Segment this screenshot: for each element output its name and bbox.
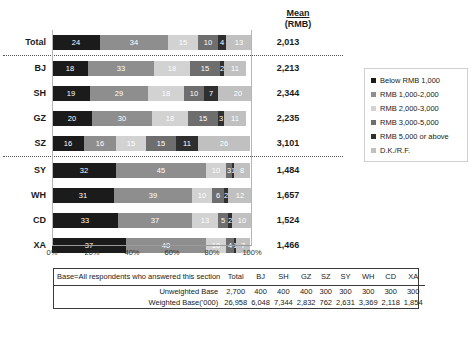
bar-segment: 4 bbox=[218, 35, 226, 50]
legend-item: RMB 2,000-3,000 bbox=[371, 101, 463, 115]
legend-swatch-icon bbox=[371, 78, 376, 83]
base-table-row: Unweighted Base2,70040040040030030030030… bbox=[54, 285, 425, 297]
axis-tick-label: 100% bbox=[242, 248, 261, 257]
mean-value: 1,657 bbox=[252, 190, 324, 200]
legend-label: Below RMB 1,000 bbox=[380, 76, 440, 85]
bar-segment: 11 bbox=[224, 111, 246, 126]
base-table-row-label: Unweighted Base bbox=[54, 285, 222, 297]
base-table-column-header: WH bbox=[357, 269, 380, 285]
base-table-cell: 2,700 bbox=[222, 285, 249, 297]
mean-header-line2: (RMB) bbox=[262, 19, 334, 30]
base-table-column-header: SZ bbox=[318, 269, 335, 285]
base-table-cell: 762 bbox=[318, 297, 335, 308]
base-table-cell: 3,369 bbox=[357, 297, 380, 308]
base-table-cell: 2,631 bbox=[334, 297, 357, 308]
row-label: SZ bbox=[0, 138, 52, 148]
bar-segment: 11 bbox=[224, 61, 246, 76]
bar-segment: 11 bbox=[176, 136, 198, 151]
bar-segment: 26 bbox=[198, 136, 250, 151]
bar-segment: 18 bbox=[154, 61, 190, 76]
legend-label: RMB 5,000 or above bbox=[380, 132, 449, 141]
base-table-cell: 400 bbox=[272, 285, 295, 297]
base-table-cell: 400 bbox=[295, 285, 318, 297]
bar-segment: 10 bbox=[192, 188, 212, 203]
base-table-cell: 400 bbox=[249, 285, 272, 297]
bar-segment: 10 bbox=[206, 163, 226, 178]
mean-header-line1: Mean bbox=[262, 8, 334, 19]
chart-legend: Below RMB 1,000RMB 1,000-2,000RMB 2,000-… bbox=[364, 68, 468, 162]
bar-segment: 19 bbox=[52, 86, 90, 101]
base-table-cell: 300 bbox=[402, 285, 425, 297]
bar-segment: 10 bbox=[184, 86, 204, 101]
chart-row-gz: GZ203018153112,235 bbox=[0, 106, 345, 130]
base-table-cell: 2,832 bbox=[295, 297, 318, 308]
base-table-cell: 300 bbox=[380, 285, 402, 297]
base-table-cell: 300 bbox=[334, 285, 357, 297]
stacked-bar: 20301815311 bbox=[52, 111, 252, 126]
bar-segment: 20 bbox=[52, 111, 92, 126]
base-table-cell: 6,048 bbox=[249, 297, 272, 308]
base-table-row: Weighted Base('000)26,9586,0487,3442,832… bbox=[54, 297, 425, 308]
bar-segment: 29 bbox=[90, 86, 148, 101]
legend-swatch-icon bbox=[371, 148, 376, 153]
legend-label: RMB 3,000-5,000 bbox=[380, 118, 439, 127]
bar-segment: 13 bbox=[226, 35, 252, 50]
stacked-bar: 24341510413 bbox=[52, 35, 252, 50]
base-table-cell: 300 bbox=[357, 285, 380, 297]
mean-value: 1,466 bbox=[252, 240, 324, 250]
bar-segment: 7 bbox=[204, 86, 218, 101]
base-table-cell: 26,958 bbox=[222, 297, 249, 308]
bar-segment: 16 bbox=[52, 136, 84, 151]
row-label: GZ bbox=[0, 113, 52, 123]
base-table-row-label: Weighted Base('000) bbox=[54, 297, 222, 308]
base-description: Base=All respondents who answered this s… bbox=[54, 269, 222, 285]
base-table-column-header: CD bbox=[380, 269, 402, 285]
legend-item: D.K./R.F. bbox=[371, 143, 463, 157]
stacked-bar: 161615151126 bbox=[52, 136, 252, 151]
row-label: Total bbox=[0, 37, 52, 47]
bar-segment: 20 bbox=[218, 86, 252, 101]
stacked-bar: 3337135210 bbox=[52, 213, 252, 228]
stacked-bar: 19291810720 bbox=[52, 86, 252, 101]
bar-segment: 10 bbox=[198, 35, 218, 50]
base-table-cell: 300 bbox=[318, 285, 335, 297]
axis-tick-label: 20% bbox=[84, 248, 99, 257]
chart-rows: Total243415104132,013BJ183318152112,213S… bbox=[0, 30, 345, 255]
legend-swatch-icon bbox=[371, 106, 376, 111]
base-table-cell: 7,344 bbox=[272, 297, 295, 308]
bar-segment: 33 bbox=[52, 213, 118, 228]
base-table-cell: 1,854 bbox=[402, 297, 425, 308]
base-table: Base=All respondents who answered this s… bbox=[53, 268, 419, 309]
legend-item: Below RMB 1,000 bbox=[371, 73, 463, 87]
bar-segment: 31 bbox=[52, 188, 114, 203]
row-label: CD bbox=[0, 215, 52, 225]
base-table-column-header: XA bbox=[402, 269, 425, 285]
bar-segment: 15 bbox=[188, 111, 218, 126]
bar-segment: 15 bbox=[168, 35, 198, 50]
bar-segment: 18 bbox=[52, 61, 88, 76]
row-label: SH bbox=[0, 88, 52, 98]
stacked-bar: 3139106212 bbox=[52, 188, 252, 203]
bar-segment: 34 bbox=[100, 35, 168, 50]
stacked-bar-chart: Total243415104132,013BJ183318152112,213S… bbox=[0, 30, 345, 255]
x-axis: 0%20%40%60%80%100% bbox=[52, 248, 252, 262]
bar-segment: 24 bbox=[52, 35, 100, 50]
bar-segment: 15 bbox=[116, 136, 146, 151]
bar-segment: 37 bbox=[118, 213, 192, 228]
chart-row-sy: SY3245103181,484 bbox=[0, 158, 345, 182]
bar-segment: 30 bbox=[92, 111, 152, 126]
group-separator bbox=[3, 55, 343, 56]
legend-item: RMB 3,000-5,000 bbox=[371, 115, 463, 129]
bar-segment: 8 bbox=[234, 163, 250, 178]
legend-item: RMB 5,000 or above bbox=[371, 129, 463, 143]
chart-row-cd: CD33371352101,524 bbox=[0, 208, 345, 232]
legend-swatch-icon bbox=[371, 134, 376, 139]
mean-value: 2,235 bbox=[252, 113, 324, 123]
row-label: WH bbox=[0, 190, 52, 200]
bar-segment: 12 bbox=[228, 188, 252, 203]
axis-tick-label: 40% bbox=[124, 248, 139, 257]
bar-segment: 6 bbox=[212, 188, 224, 203]
base-table-column-header: SY bbox=[334, 269, 357, 285]
bar-segment: 15 bbox=[190, 61, 220, 76]
stacked-bar: 324510318 bbox=[52, 163, 252, 178]
